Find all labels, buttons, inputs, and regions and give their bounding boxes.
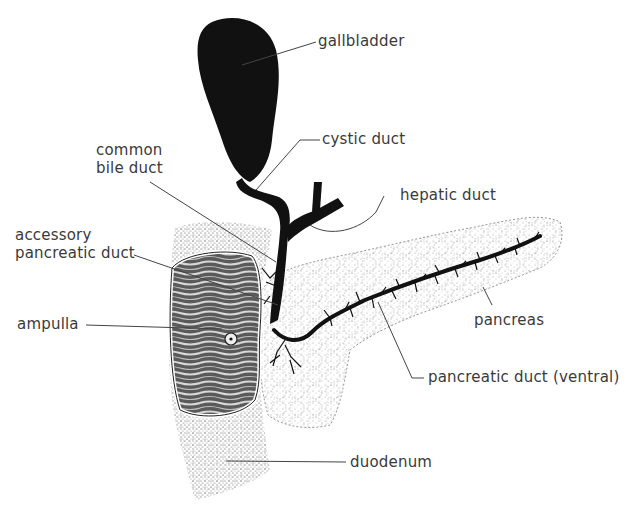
- label-ampulla: ampulla: [17, 316, 79, 332]
- duodenal-window: [170, 252, 261, 416]
- leader-pancreas: [483, 287, 492, 305]
- label-accessory-pancreatic-duct-line2: pancreatic duct: [15, 245, 135, 261]
- label-common-bile-duct-line2: bile duct: [96, 160, 163, 176]
- label-pancreatic-duct-ventral: pancreatic duct (ventral): [428, 369, 619, 385]
- label-gallbladder: gallbladder: [318, 33, 405, 49]
- label-hepatic-duct: hepatic duct: [400, 187, 496, 203]
- label-cystic-duct: cystic duct: [322, 131, 405, 147]
- gallbladder-shape: [198, 18, 279, 182]
- label-pancreas: pancreas: [474, 312, 544, 328]
- anatomy-figure: gallbladder cystic duct common bile duct…: [0, 0, 627, 513]
- label-duodenum: duodenum: [350, 454, 432, 470]
- label-accessory-pancreatic-duct-line1: accessory: [15, 227, 92, 243]
- label-common-bile-duct-line1: common: [96, 142, 163, 158]
